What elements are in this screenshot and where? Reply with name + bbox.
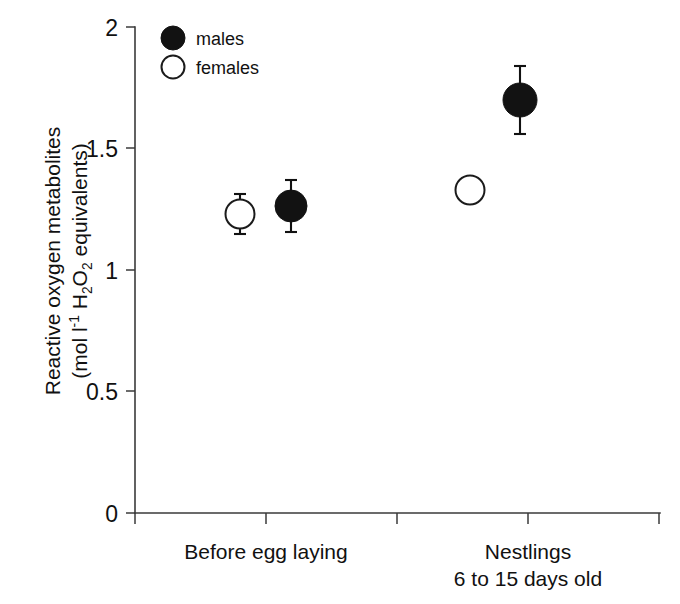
y-tick-labels: 2 1.5 1 0.5 0	[86, 15, 118, 527]
legend-marker-filled-circle-icon	[161, 26, 185, 50]
marker-open-circle	[226, 200, 255, 229]
legend-label-females: females	[196, 58, 259, 78]
legend-marker-open-circle-icon	[162, 56, 185, 79]
data-point-nestlings-females	[456, 176, 485, 205]
marker-open-circle	[456, 176, 485, 205]
y-tick-label-0-5: 0.5	[86, 379, 118, 405]
x-category-label-nestlings: Nestlings	[485, 540, 571, 563]
data-point-before-egg-laying-females	[226, 194, 255, 234]
x-axis	[135, 513, 660, 524]
scatter-plot-canvas: 2 1.5 1 0.5 0 Before egg laying Nestling…	[0, 0, 680, 604]
y-tick-label-1-5: 1.5	[86, 136, 118, 162]
x-category-label-before-egg-laying: Before egg laying	[184, 540, 347, 563]
marker-filled-circle	[503, 83, 537, 117]
y-axis	[126, 27, 135, 513]
x-category-labels: Before egg laying Nestlings 6 to 15 days…	[184, 540, 602, 590]
marker-filled-circle	[275, 190, 307, 222]
y-tick-label-0: 0	[105, 501, 118, 527]
data-point-nestlings-males	[503, 66, 537, 134]
y-tick-label-1: 1	[105, 258, 118, 284]
legend-label-males: males	[196, 29, 244, 49]
x-category-label-nestlings-age: 6 to 15 days old	[454, 567, 602, 590]
chart-figure: 2 1.5 1 0.5 0 Before egg laying Nestling…	[0, 0, 680, 604]
legend: males females	[161, 26, 259, 79]
data-point-before-egg-laying-males	[275, 180, 307, 232]
y-tick-label-2: 2	[105, 15, 118, 41]
